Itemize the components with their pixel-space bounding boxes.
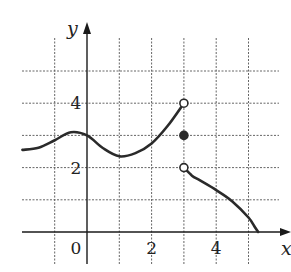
open-circle-point — [180, 99, 188, 107]
open-circle-point — [180, 164, 188, 172]
x-tick-label: 2 — [146, 238, 157, 258]
function-graph: x y 02424 — [0, 0, 291, 272]
x-axis-arrow-icon — [280, 228, 291, 236]
filled-dot-point — [180, 131, 188, 139]
x-axis-label: x — [281, 237, 291, 259]
y-tick-label: 4 — [71, 93, 82, 113]
grid — [22, 38, 279, 264]
x-tick-label: 0 — [71, 238, 82, 258]
y-axis-arrow-icon — [83, 22, 91, 34]
curve-left-branch — [22, 103, 184, 156]
x-tick-label: 4 — [211, 238, 222, 258]
y-axis-label: y — [66, 17, 78, 39]
tick-labels: 02424 — [71, 93, 222, 258]
y-tick-label: 2 — [71, 158, 82, 178]
